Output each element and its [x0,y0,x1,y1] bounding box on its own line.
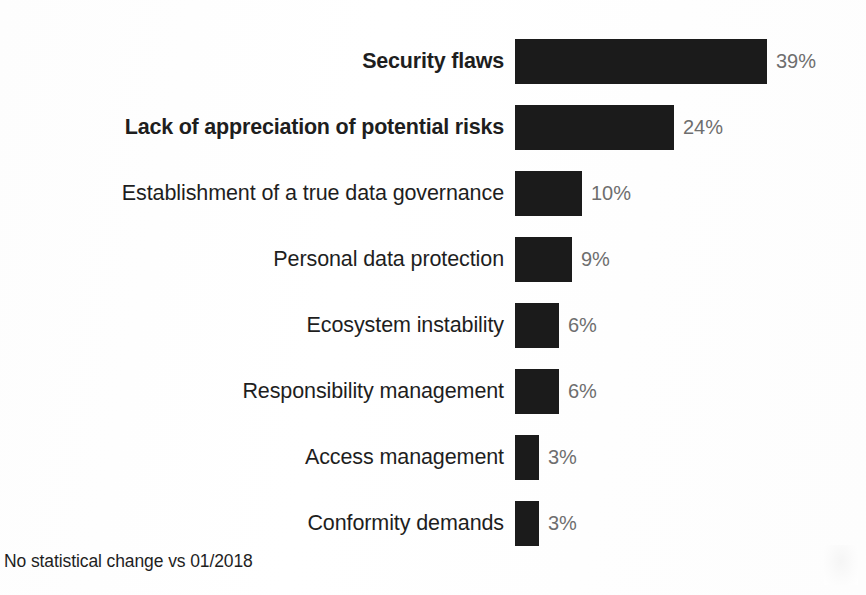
bar-row: Responsibility management6% [0,368,866,414]
bar-row: Ecosystem instability6% [0,302,866,348]
category-label: Ecosystem instability [0,313,515,337]
bar-value-label: 3% [539,512,577,534]
bar-value-label: 24% [674,116,723,138]
bar-row: Conformity demands3% [0,500,866,546]
bar-value-label: 6% [559,314,597,336]
category-label: Security flaws [0,49,515,73]
bar-value-label: 3% [539,446,577,468]
bar [515,501,539,546]
scan-artifact [824,545,858,585]
horizontal-bar-chart: Security flaws39%Lack of appreciation of… [0,0,866,540]
bar-row: Personal data protection9% [0,236,866,282]
bar-container: 6% [515,302,866,348]
bar-value-label: 6% [559,380,597,402]
bar [515,105,674,150]
bar [515,303,559,348]
bar-container: 3% [515,434,866,480]
bar [515,369,559,414]
bar-row: Access management3% [0,434,866,480]
bar-row: Establishment of a true data governance1… [0,170,866,216]
bar [515,435,539,480]
bar [515,171,582,216]
bar [515,237,572,282]
chart-footnote: No statistical change vs 01/2018 [4,551,253,572]
bar-container: 24% [515,104,866,150]
bar-container: 6% [515,368,866,414]
category-label: Lack of appreciation of potential risks [0,115,515,139]
category-label: Access management [0,445,515,469]
bar-container: 3% [515,500,866,546]
bar-value-label: 10% [582,182,631,204]
bar [515,39,767,84]
bar-row: Security flaws39% [0,38,866,84]
bar-value-label: 9% [572,248,610,270]
bar-container: 39% [515,38,866,84]
category-label: Establishment of a true data governance [0,181,515,205]
bar-value-label: 39% [767,50,816,72]
category-label: Conformity demands [0,511,515,535]
bar-row: Lack of appreciation of potential risks2… [0,104,866,150]
category-label: Responsibility management [0,379,515,403]
bar-container: 9% [515,236,866,282]
bar-container: 10% [515,170,866,216]
category-label: Personal data protection [0,247,515,271]
